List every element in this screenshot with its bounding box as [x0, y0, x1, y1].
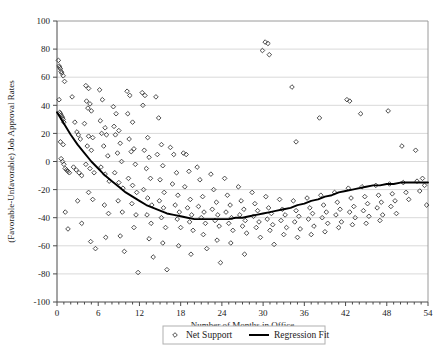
scatter-point	[144, 166, 149, 171]
scatter-point	[400, 144, 405, 149]
scatter-point	[118, 234, 123, 239]
scatter-point	[132, 225, 137, 230]
scatter-point	[393, 199, 398, 204]
scatter-point	[189, 252, 194, 257]
scatter-point	[218, 260, 223, 265]
scatter-point	[177, 210, 182, 215]
scatter-point	[157, 199, 162, 204]
scatter-point	[151, 255, 156, 260]
scatter-point	[112, 170, 117, 175]
scatter-point	[228, 203, 233, 208]
scatter-point	[145, 135, 150, 140]
scatter-point	[225, 193, 230, 198]
scatter-point	[66, 227, 71, 232]
scatter-point	[203, 221, 208, 226]
scatter-point	[389, 204, 394, 209]
scatter-point	[93, 246, 98, 251]
scatter-point	[237, 213, 242, 218]
scatter-point	[323, 229, 328, 234]
scatter-point	[88, 166, 93, 171]
scatter-point	[239, 199, 244, 204]
scatter-point	[196, 204, 201, 209]
scatter-point	[130, 120, 135, 125]
scatter-point	[244, 231, 249, 236]
scatter-point	[86, 190, 91, 195]
scatter-point	[120, 210, 125, 215]
scatter-point	[156, 116, 161, 121]
y-axis-title: (Favorable-Unfavorable) Job Approval Rat…	[6, 80, 16, 243]
scatter-point	[268, 228, 273, 233]
x-axis: 061218243036424854	[55, 302, 433, 318]
x-axis-tick-label: 18	[176, 308, 186, 318]
y-axis-tick-label: 40	[41, 101, 51, 111]
scatter-point	[84, 162, 89, 167]
scatter-point	[130, 183, 135, 188]
scatter-point	[324, 210, 329, 215]
scatter-point	[209, 172, 214, 177]
y-axis-tick-label: -40	[38, 213, 50, 223]
scatter-point	[270, 222, 275, 227]
scatter-point	[231, 228, 236, 233]
scatter-point	[122, 249, 127, 254]
scatter-point	[85, 144, 90, 149]
scatter-point	[349, 196, 354, 201]
scatter-point	[178, 225, 183, 230]
scatter-point	[126, 176, 131, 181]
chart-legend: Net SupportRegression Fit	[163, 326, 330, 344]
chart-figure: -100-80-60-40-20020406080100061218243036…	[0, 0, 446, 356]
scatter-point	[214, 200, 219, 205]
scatter-point	[98, 118, 103, 123]
scatter-point	[75, 199, 80, 204]
scatter-point	[222, 176, 227, 181]
gridlines	[57, 49, 428, 274]
scatter-point	[70, 95, 75, 100]
regression-fit-line	[57, 112, 428, 219]
scatter-point	[378, 218, 383, 223]
scatter-point	[292, 220, 297, 225]
x-axis-tick-label: 36	[300, 308, 310, 318]
scatter-point	[103, 125, 108, 130]
x-axis-tick-label: 30	[259, 308, 269, 318]
scatter-point	[187, 169, 192, 174]
scatter-point	[358, 111, 363, 116]
scatter-point	[291, 199, 296, 204]
scatter-point	[305, 196, 310, 201]
scatter-point	[413, 148, 418, 153]
scatter-point	[229, 241, 234, 246]
scatter-point	[202, 210, 207, 215]
y-axis: -100-80-60-40-20020406080100	[34, 16, 58, 307]
scatter-point	[171, 152, 176, 157]
scatter-point	[210, 207, 215, 212]
scatter-point	[215, 213, 220, 218]
scatter-point	[182, 184, 187, 189]
scatter-point	[406, 197, 411, 202]
scatter-point	[298, 227, 303, 232]
scatter-point	[165, 267, 170, 272]
y-axis-tick-label: 100	[37, 16, 51, 26]
scatter-point	[309, 232, 314, 237]
y-axis-tick-label: 0	[46, 157, 51, 167]
scatter-point	[106, 154, 111, 159]
scatter-point	[257, 220, 262, 225]
scatter-point	[295, 235, 300, 240]
scatter-point	[163, 225, 168, 230]
scatter-point	[321, 203, 326, 208]
scatter-point	[240, 224, 245, 229]
scatter-point	[97, 88, 102, 93]
scatter-point	[115, 151, 120, 156]
scatter-point	[147, 236, 152, 241]
scatter-point	[379, 200, 384, 205]
scatter-point	[242, 252, 247, 257]
scatter-point	[125, 89, 130, 94]
scatter-point	[352, 204, 357, 209]
scatter-point	[174, 170, 179, 175]
scatter-point	[106, 211, 111, 216]
y-axis-tick-label: 60	[41, 72, 51, 82]
x-axis-tick-label: 12	[135, 308, 144, 318]
scatter-point	[185, 206, 190, 211]
legend-label-regression-fit: Regression Fit	[274, 330, 330, 340]
scatter-point	[294, 140, 299, 145]
scatter-point	[134, 190, 139, 195]
y-axis-tick-label: 20	[41, 129, 51, 139]
scatter-point	[89, 148, 94, 153]
